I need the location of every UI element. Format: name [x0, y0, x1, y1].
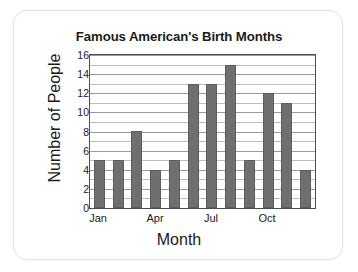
- bar-sep: [244, 160, 255, 208]
- y-tick-label-8: 8: [69, 127, 89, 137]
- plot-area: [89, 54, 316, 209]
- bar-nov: [281, 103, 292, 208]
- x-tick-label-oct: Oct: [258, 212, 275, 224]
- y-tick-label-4: 4: [69, 165, 89, 175]
- x-axis-title: Month: [54, 231, 304, 249]
- bar-group: [90, 55, 315, 208]
- chart-card: Famous American's Birth Months Number of…: [13, 10, 343, 260]
- y-tick-label-10: 10: [69, 107, 89, 117]
- bar-aug: [225, 65, 236, 208]
- bar-feb: [113, 160, 124, 208]
- y-axis-tick-group: 0246810121416: [65, 54, 89, 209]
- bar-jul: [206, 84, 217, 208]
- y-tick-label-2: 2: [69, 184, 89, 194]
- y-tick-label-12: 12: [69, 88, 89, 98]
- x-tick-label-jan: Jan: [89, 212, 107, 224]
- bar-oct: [263, 93, 274, 208]
- y-tick-label-14: 14: [69, 69, 89, 79]
- bar-mar: [131, 131, 142, 208]
- y-axis-title: Number of People: [46, 38, 64, 198]
- bar-dec: [300, 170, 311, 208]
- y-tick-label-16: 16: [69, 50, 89, 60]
- y-tick-label-6: 6: [69, 146, 89, 156]
- chart-screenshot: Famous American's Birth Months Number of…: [0, 0, 358, 272]
- bar-jan: [94, 160, 105, 208]
- y-tick-label-0: 0: [69, 203, 89, 213]
- x-tick-label-apr: Apr: [146, 212, 163, 224]
- bar-apr: [150, 170, 161, 208]
- x-axis-tick-group: JanAprJulOct: [89, 212, 316, 228]
- bar-jun: [188, 84, 199, 208]
- bar-may: [169, 160, 180, 208]
- x-tick-label-jul: Jul: [204, 212, 218, 224]
